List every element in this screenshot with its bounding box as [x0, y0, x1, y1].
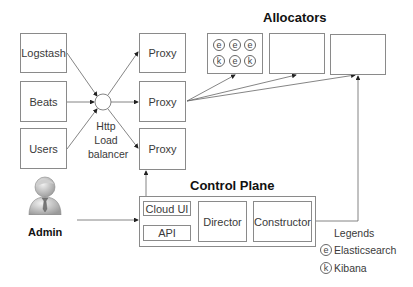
legend-title: Legends [334, 227, 374, 239]
load-balancer-node [95, 94, 111, 110]
legend-item-kibana: k Kibana [320, 262, 367, 274]
control-plane-title: Control Plane [190, 178, 275, 193]
admin-user-icon [27, 175, 63, 215]
proxy-box-2: Proxy [139, 81, 186, 122]
lb-line-3: balancer [88, 147, 124, 161]
allocator-box-3 [330, 34, 386, 75]
constructor-box: Constructor [253, 201, 312, 242]
beats-label: Beats [29, 96, 57, 108]
elasticsearch-node-icon: e [244, 39, 256, 51]
constructor-label: Constructor [254, 216, 311, 228]
logstash-label: Logstash [21, 47, 66, 59]
director-label: Director [203, 216, 242, 228]
elasticsearch-node-icon: e [229, 39, 241, 51]
legend-label: Kibana [334, 262, 367, 274]
beats-box: Beats [20, 81, 67, 122]
load-balancer-label: Http Load balancer [88, 119, 124, 161]
proxy-box-1: Proxy [139, 33, 186, 73]
director-box: Director [198, 201, 247, 242]
allocators-title: Allocators [263, 10, 327, 25]
api-box: API [143, 225, 191, 241]
users-box: Users [20, 128, 67, 169]
cloud-ui-box: Cloud UI [143, 201, 191, 216]
elasticsearch-legend-icon: e [320, 244, 332, 256]
kibana-node-icon: k [213, 55, 225, 67]
admin-label: Admin [28, 226, 62, 238]
lb-line-2: Load [88, 133, 124, 147]
api-label: API [158, 227, 176, 239]
users-label: Users [29, 143, 58, 155]
kibana-node-icon: k [244, 55, 256, 67]
cloud-ui-label: Cloud UI [146, 203, 189, 215]
logstash-box: Logstash [20, 33, 67, 73]
elasticsearch-node-icon: e [229, 55, 241, 67]
elasticsearch-node-icon: e [213, 39, 225, 51]
legend-label: Elasticsearch [334, 244, 396, 256]
proxy-label: Proxy [148, 96, 176, 108]
lb-line-1: Http [88, 119, 124, 133]
kibana-legend-icon: k [320, 262, 332, 274]
allocator-box-2 [269, 33, 325, 74]
proxy-label: Proxy [148, 47, 176, 59]
legend-item-elasticsearch: e Elasticsearch [320, 244, 396, 256]
proxy-box-3: Proxy [139, 128, 186, 170]
proxy-label: Proxy [148, 143, 176, 155]
